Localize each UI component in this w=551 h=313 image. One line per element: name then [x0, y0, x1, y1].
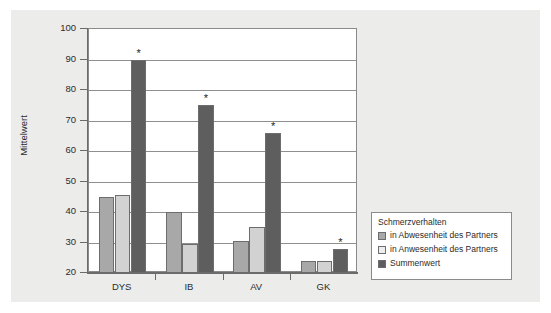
- y-axis-tick-label: 100: [46, 23, 76, 33]
- y-axis-tick: [80, 242, 88, 243]
- y-axis-tick-label: 90: [46, 54, 76, 64]
- bar: [182, 244, 198, 273]
- y-axis-tick-label: 30: [46, 237, 76, 247]
- bar: [265, 133, 281, 273]
- legend-item: Summenwert: [378, 259, 511, 269]
- significance-asterisk: *: [198, 93, 214, 104]
- legend-items: in Abwesenheit des Partnersin Anwesenhei…: [378, 231, 511, 269]
- bar: [166, 212, 182, 273]
- y-axis-tick: [80, 28, 88, 29]
- y-axis-tick-label: 80: [46, 84, 76, 94]
- y-axis-tick: [80, 181, 88, 182]
- y-axis-tick: [80, 211, 88, 212]
- x-axis-tick-label: GK: [290, 281, 357, 292]
- x-axis-separator-tick: [223, 274, 224, 280]
- bar: [233, 241, 249, 273]
- significance-asterisk: *: [131, 48, 147, 59]
- bar: [249, 227, 265, 273]
- y-axis-tick: [80, 89, 88, 90]
- x-axis-separator-tick: [155, 274, 156, 280]
- legend-swatch: [378, 260, 386, 268]
- gridline: [89, 151, 356, 152]
- legend-item: in Anwesenheit des Partners: [378, 245, 511, 255]
- bar: [99, 197, 115, 273]
- bar: [131, 60, 147, 274]
- significance-asterisk: *: [265, 121, 281, 132]
- y-axis-tick-label: 50: [46, 176, 76, 186]
- x-axis-tick-label: DYS: [88, 281, 155, 292]
- legend-item-label: in Abwesenheit des Partners: [390, 231, 498, 240]
- x-axis-separator-tick: [290, 274, 291, 280]
- gridline: [89, 182, 356, 183]
- x-axis-tick-label: AV: [223, 281, 290, 292]
- y-axis-tick-labels: 2030405060708090100: [44, 0, 76, 313]
- y-axis-tick-label: 60: [46, 145, 76, 155]
- gridline: [89, 90, 356, 91]
- y-axis-tick-label: 70: [46, 115, 76, 125]
- y-axis-tick-label: 20: [46, 267, 76, 277]
- bar: [115, 195, 131, 273]
- y-axis-title: Mittelwert: [18, 86, 29, 186]
- plot-area: ****: [88, 28, 357, 272]
- bar: [198, 105, 214, 273]
- gridline: [89, 121, 356, 122]
- y-axis-tick: [80, 150, 88, 151]
- legend-title: Schmerzverhalten: [378, 218, 511, 227]
- legend-item-label: Summenwert: [390, 259, 440, 268]
- legend-swatch: [378, 246, 386, 254]
- x-axis-tick-label: IB: [155, 281, 222, 292]
- gridline: [89, 60, 356, 61]
- legend-swatch: [378, 232, 386, 240]
- legend-item-label: in Anwesenheit des Partners: [390, 245, 498, 254]
- chart-figure: Mittelwert 2030405060708090100 **** DYSI…: [0, 0, 551, 313]
- y-axis-tick: [80, 59, 88, 60]
- y-axis-tick-label: 40: [46, 206, 76, 216]
- legend: Schmerzverhalten in Abwesenheit des Part…: [371, 212, 512, 280]
- gridline: [89, 29, 356, 30]
- legend-item: in Abwesenheit des Partners: [378, 231, 511, 241]
- significance-asterisk: *: [333, 237, 349, 248]
- bar: [333, 249, 349, 273]
- y-axis-tick: [80, 120, 88, 121]
